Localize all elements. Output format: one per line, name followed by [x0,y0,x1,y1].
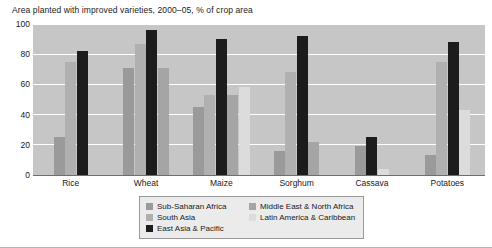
legend-swatch-icon [146,225,153,232]
bar-group [184,24,259,175]
y-tick-label: 40 [2,111,30,120]
legend-item[interactable]: East Asia & Pacific [146,223,249,234]
bar [65,62,76,175]
bar [285,72,296,175]
bar [239,87,250,175]
bar [204,95,215,175]
legend-columns: Sub-Saharan AfricaSouth AsiaEast Asia & … [146,201,358,234]
bar [355,146,366,175]
bar [123,68,134,175]
bar [308,142,319,175]
x-tick-label: Potatoes [410,178,485,188]
y-axis: 020406080100 [0,24,30,175]
legend-label: Sub-Saharan Africa [157,202,226,211]
bar [135,44,146,175]
legend-item[interactable]: South Asia [146,212,249,223]
bar [436,62,447,175]
bar-group [108,24,183,175]
y-tick-label: 20 [2,141,30,150]
legend-item[interactable]: Sub-Saharan Africa [146,201,249,212]
y-tick-label: 80 [2,50,30,59]
chart-title: Area planted with improved varieties, 20… [12,5,253,15]
bar [366,137,377,175]
bar [459,110,470,175]
y-tick-label: 60 [2,80,30,89]
bar [146,30,157,175]
bar [158,68,169,175]
legend-label: Latin America & Caribbean [260,213,355,222]
y-tick-label: 0 [2,171,30,180]
legend-label: South Asia [157,213,195,222]
legend-swatch-icon [249,214,256,221]
bar [425,155,436,175]
legend-swatch-icon [146,214,153,221]
legend-swatch-icon [249,203,256,210]
x-tick-label: Sorghum [259,178,334,188]
x-tick-label: Wheat [108,178,183,188]
legend-label: Middle East & North Africa [260,202,353,211]
legend-column: Middle East & North AfricaLatin America … [249,201,358,234]
legend-label: East Asia & Pacific [157,224,224,233]
chart-figure: Area planted with improved varieties, 20… [0,0,492,248]
x-tick-label: Cassava [334,178,409,188]
x-tick-label: Maize [184,178,259,188]
bar [54,137,65,175]
x-tick-label: Rice [33,178,108,188]
bar [77,51,88,175]
bar [297,36,308,175]
legend-item[interactable]: Middle East & North Africa [249,201,358,212]
bars-layer [33,24,485,175]
bar [193,107,204,175]
legend-column: Sub-Saharan AfricaSouth AsiaEast Asia & … [146,201,249,234]
x-axis: RiceWheatMaizeSorghumCassavaPotatoes [33,178,485,192]
bar-group [410,24,485,175]
bar-group [33,24,108,175]
y-tick-label: 100 [2,20,30,29]
bar [274,151,285,175]
x-axis-line [33,175,485,176]
bar-group [259,24,334,175]
legend-item[interactable]: Latin America & Caribbean [249,212,358,223]
chart-legend: Sub-Saharan AfricaSouth AsiaEast Asia & … [139,196,364,239]
bar [227,95,238,175]
bar [216,39,227,175]
bar [378,169,389,175]
legend-swatch-icon [146,203,153,210]
bar [448,42,459,175]
bar-group [334,24,409,175]
